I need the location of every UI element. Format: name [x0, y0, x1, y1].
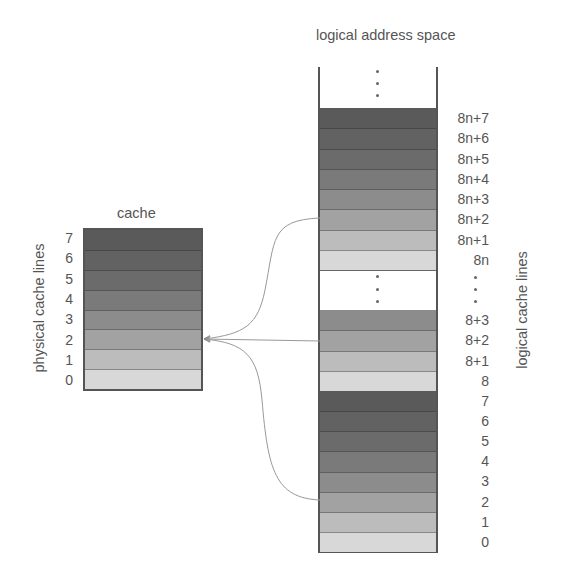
arrow-2-to-2 — [204, 339, 320, 500]
arrow-8n+2-to-2 — [204, 218, 320, 339]
mapping-arrows — [0, 0, 561, 574]
arrow-8+2-to-2 — [204, 339, 320, 341]
